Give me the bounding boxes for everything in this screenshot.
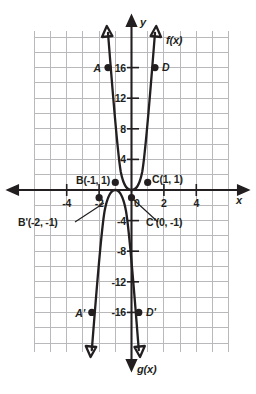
x-axis-label: x (236, 195, 242, 205)
point-D-prime (135, 309, 142, 316)
point-label-D-prime: D' (146, 307, 156, 317)
point-label-A: A (94, 63, 101, 73)
point-B (112, 179, 119, 186)
y-tick-8: 8 (120, 124, 126, 134)
point-label-C-prime: C'(0, -1) (146, 217, 182, 227)
point-label-C: C(1, 1) (152, 174, 183, 184)
y-tick-16: 16 (115, 63, 126, 73)
y-tick-neg12: -12 (111, 277, 126, 287)
curve-g-arrow-right (134, 346, 144, 357)
coordinate-plane-svg (0, 0, 256, 394)
y-tick-12: 12 (115, 93, 126, 103)
point-label-A-prime: A' (75, 308, 85, 318)
curve-f-arrow-right (151, 26, 161, 37)
point-A (104, 64, 111, 71)
point-D (151, 64, 158, 71)
x-axis-arrow-left (8, 186, 18, 195)
point-label-D: D (162, 62, 169, 72)
y-axis-arrow-down (127, 360, 136, 370)
curve-f-arrow-left (102, 26, 112, 37)
y-axis-arrow-up (127, 16, 136, 26)
x-tick-neg2: -2 (95, 198, 104, 208)
x-tick-2: 2 (161, 198, 167, 208)
origin-label: 0 (134, 198, 140, 208)
point-A-prime (88, 309, 95, 316)
x-tick-4: 4 (193, 198, 199, 208)
point-C (144, 179, 151, 186)
y-tick-neg4: -4 (117, 216, 126, 226)
curve-label-f: f(x) (166, 35, 182, 45)
point-label-B-prime: B'(-2, -1) (18, 217, 58, 227)
x-tick-neg4: -4 (62, 198, 71, 208)
y-axis-label: y (140, 17, 146, 27)
y-tick-neg16: -16 (111, 307, 126, 317)
y-tick-4: 4 (120, 154, 126, 164)
graph-figure: y x f(x) g(x) 16 12 8 4 -4 -8 -12 -16 -4… (0, 0, 256, 394)
curve-label-g: g(x) (137, 364, 156, 374)
curve-g-arrow-left (86, 346, 96, 357)
y-tick-neg8: -8 (117, 246, 126, 256)
point-label-B: B(-1, 1) (76, 175, 110, 185)
